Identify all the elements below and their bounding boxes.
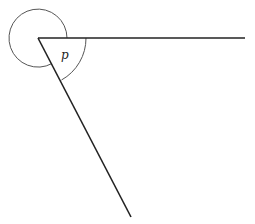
angle-diagram: p — [0, 0, 255, 224]
angle-p-label: p — [61, 48, 69, 62]
diagonal-ray — [38, 38, 131, 217]
